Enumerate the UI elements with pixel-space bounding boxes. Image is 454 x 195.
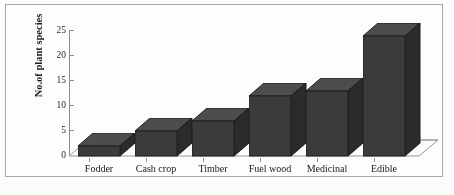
x-tick-mark-3 <box>260 158 261 162</box>
y-tick-mark-25 <box>69 30 74 31</box>
bar-body <box>78 133 137 158</box>
x-tick-label-edible: Edible <box>349 164 419 174</box>
y-tick-mark-20 <box>69 55 74 56</box>
y-axis-line <box>69 30 70 156</box>
x-tick-mark-5 <box>374 158 375 162</box>
y-tick-label-15: 15 <box>44 76 66 86</box>
bar-body <box>135 118 194 158</box>
bar-medicinal[interactable] <box>306 78 363 156</box>
x-tick-mark-2 <box>203 158 204 162</box>
x-tick-mark-1 <box>146 158 147 162</box>
bar-edible[interactable] <box>363 23 420 156</box>
bar-cash-crop[interactable] <box>135 118 192 156</box>
bar-body <box>363 23 422 158</box>
x-tick-mark-0 <box>89 158 90 162</box>
bar-body <box>249 83 308 158</box>
y-axis-tick-labels: 25 20 15 10 5 0 <box>44 0 66 195</box>
y-tick-mark-10 <box>69 105 74 106</box>
bar-body <box>306 78 365 158</box>
x-tick-mark-4 <box>317 158 318 162</box>
bar-fodder[interactable] <box>78 133 135 156</box>
y-tick-mark-15 <box>69 80 74 81</box>
y-tick-mark-5 <box>69 130 74 131</box>
bar-body <box>192 108 251 158</box>
y-tick-label-10: 10 <box>44 101 66 111</box>
y-axis-title: No.of plant species <box>33 0 44 116</box>
bar-fuel-wood[interactable] <box>249 83 306 156</box>
chart-figure: No.of plant species 25 20 15 10 5 0 Fodd… <box>0 0 454 195</box>
y-tick-mark-0 <box>69 155 74 156</box>
bar-timber[interactable] <box>192 108 249 156</box>
y-tick-label-20: 20 <box>44 51 66 61</box>
y-tick-label-5: 5 <box>44 126 66 136</box>
y-tick-label-0: 0 <box>44 151 66 161</box>
plot-area: No.of plant species 25 20 15 10 5 0 Fodd… <box>0 0 454 195</box>
y-tick-label-25: 25 <box>44 26 66 36</box>
